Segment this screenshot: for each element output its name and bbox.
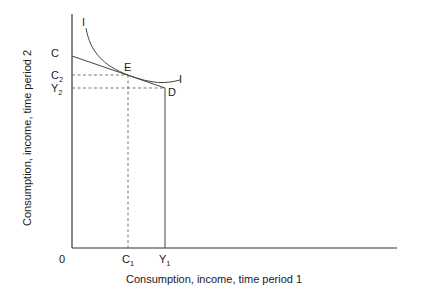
origin-label: 0 [59,253,65,265]
indifference-label-right: I [179,73,182,85]
y-tick-y2: Y2 [51,82,63,97]
x-tick-c1-sub: 1 [130,259,134,268]
y-tick-y2-sub: 2 [58,88,62,97]
budget-line [72,56,165,88]
y-tick-c: C [51,47,59,59]
y-tick-c-base: C [51,47,59,59]
y-tick-c2-base: C [51,69,59,81]
x-axis-title: Consumption, income, time period 1 [126,273,302,285]
point-e-label: E [124,61,131,73]
x-tick-y1-sub: 1 [166,259,170,268]
x-tick-y1: Y1 [159,253,171,268]
y-tick-c2-sub: 2 [59,75,63,84]
indifference-curve [86,28,180,83]
indifference-label-top: I [82,16,85,28]
intertemporal-diagram: I I E D C C2 Y2 0 C1 Y1 Consumption, inc… [0,0,433,299]
point-d-label: D [168,86,176,98]
x-tick-c1: C1 [122,253,134,268]
x-tick-c1-base: C [122,253,130,265]
y-axis-title: Consumption, income, time period 2 [21,50,33,226]
